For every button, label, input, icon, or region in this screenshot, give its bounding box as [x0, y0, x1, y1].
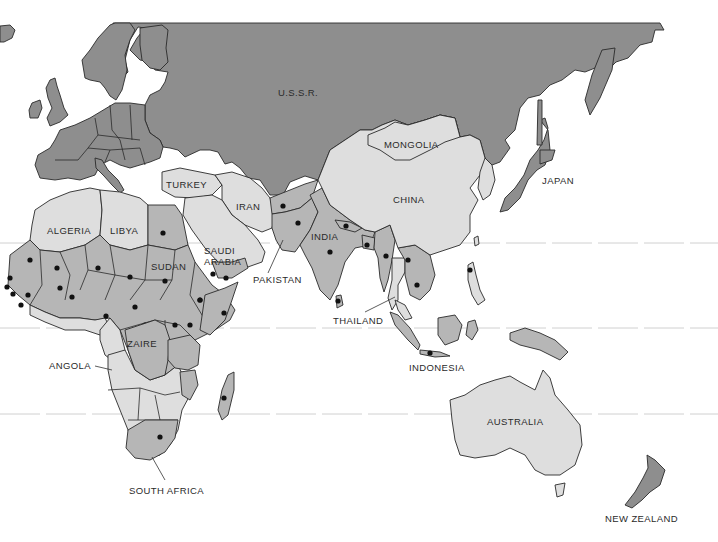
country-norway-sweden	[82, 23, 135, 100]
label-saudi-arabia-2: ARABIA	[204, 257, 241, 267]
sakhalin	[537, 100, 542, 145]
country-libya	[100, 190, 148, 250]
label-south-africa: SOUTH AFRICA	[129, 486, 204, 496]
label-pakistan: PAKISTAN	[253, 275, 302, 285]
country-ireland	[29, 100, 42, 118]
country-java	[420, 350, 450, 357]
label-iran: IRAN	[236, 202, 260, 212]
label-new-zealand: NEW ZEALAND	[605, 514, 678, 524]
country-sulawesi	[466, 320, 478, 340]
label-libya: LIBYA	[110, 226, 138, 236]
label-angola: ANGOLA	[49, 361, 91, 371]
label-japan: JAPAN	[542, 176, 574, 186]
country-finland	[140, 25, 168, 70]
country-new-guinea	[510, 328, 568, 360]
country-madagascar	[218, 372, 234, 420]
label-zaire: ZAIRE	[127, 339, 157, 349]
country-egypt	[148, 205, 188, 250]
country-tanzania	[168, 335, 200, 370]
label-thailand: THAILAND	[333, 316, 383, 326]
country-taiwan	[474, 236, 479, 246]
label-algeria: ALGERIA	[47, 226, 91, 236]
tasmania	[555, 483, 565, 497]
label-india: INDIA	[311, 232, 338, 242]
country-mozambique-malawi	[180, 370, 198, 400]
label-saudi-arabia-1: SAUDI	[204, 246, 235, 256]
label-turkey: TURKEY	[166, 180, 207, 190]
label-ussr: U.S.S.R.	[278, 88, 318, 98]
label-australia: AUSTRALIA	[487, 417, 543, 427]
japan-hokkaido	[540, 150, 555, 164]
label-sudan: SUDAN	[151, 262, 186, 272]
country-new-zealand	[625, 455, 665, 508]
country-borneo	[438, 315, 462, 345]
world-map	[0, 0, 718, 542]
country-bangladesh	[362, 235, 375, 250]
label-china: CHINA	[393, 195, 425, 205]
country-uk	[46, 78, 68, 126]
label-indonesia: INDONESIA	[409, 363, 465, 373]
greenland	[0, 25, 15, 42]
label-mongolia: MONGOLIA	[384, 140, 438, 150]
